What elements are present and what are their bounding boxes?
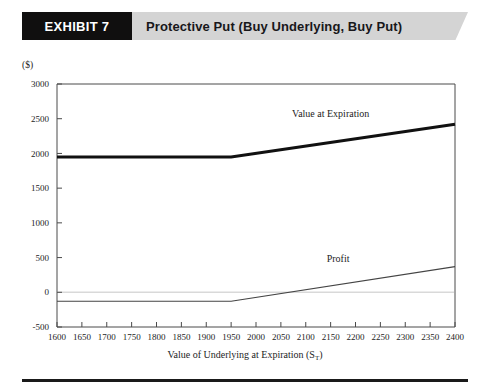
y-axis-tick-label: -500 — [33, 322, 50, 332]
x-axis-tick-label: 1600 — [48, 332, 67, 342]
x-axis-tick-label: 1950 — [222, 332, 241, 342]
x-axis-tick-label: 2400 — [446, 332, 465, 342]
x-axis-tick-label: 2350 — [421, 332, 440, 342]
y-axis-tick-label: 0 — [45, 287, 50, 297]
y-axis-tick-label: 1000 — [31, 218, 50, 228]
series-label-profit: Profit — [327, 253, 350, 264]
series-line-profit — [57, 267, 455, 302]
x-axis-tick-label: 2000 — [247, 332, 266, 342]
x-axis-tick-label: 2200 — [347, 332, 366, 342]
x-axis-tick-label: 1750 — [123, 332, 142, 342]
plot-area-frame — [57, 84, 455, 327]
exhibit-number-badge: EXHIBIT 7 — [22, 12, 132, 40]
y-axis-tick-label: 2500 — [31, 114, 50, 124]
x-axis-tick-label: 1800 — [148, 332, 167, 342]
footer-rule — [22, 379, 468, 382]
series-label-value: Value at Expiration — [292, 108, 369, 119]
x-axis-tick-label: 1850 — [172, 332, 191, 342]
y-axis-tick-label: 1500 — [31, 183, 50, 193]
series-group — [57, 124, 455, 301]
x-axis-tick-label: 2250 — [371, 332, 390, 342]
x-axis-title: Value of Underlying at Expiration (ST) — [167, 349, 322, 362]
series-annotations-group: Value at ExpirationProfit — [292, 108, 369, 265]
exhibit-header: EXHIBIT 7 Protective Put (Buy Underlying… — [22, 12, 468, 40]
payoff-diagram: ($) -500050010001500200025003000 1600165… — [0, 46, 490, 366]
x-axis-ticks-group: 1600165017001750180018501900195020002050… — [48, 322, 465, 342]
x-axis-tick-label: 1700 — [98, 332, 117, 342]
y-axis-tick-label: 500 — [36, 253, 50, 263]
x-axis-tick-label: 1650 — [73, 332, 92, 342]
exhibit-title: Protective Put (Buy Underlying, Buy Put) — [146, 12, 402, 40]
x-axis-tick-label: 2100 — [297, 332, 316, 342]
y-axis-tick-label: 3000 — [31, 79, 50, 89]
y-axis-tick-label: 2000 — [31, 149, 50, 159]
x-axis-tick-label: 2300 — [396, 332, 415, 342]
x-axis-tick-label: 1900 — [197, 332, 216, 342]
chart-figure: ($) -500050010001500200025003000 1600165… — [0, 46, 490, 366]
x-axis-tick-label: 2050 — [272, 332, 291, 342]
y-axis-unit-label: ($) — [22, 60, 33, 71]
x-axis-tick-label: 2150 — [322, 332, 341, 342]
series-line-value — [57, 124, 455, 157]
